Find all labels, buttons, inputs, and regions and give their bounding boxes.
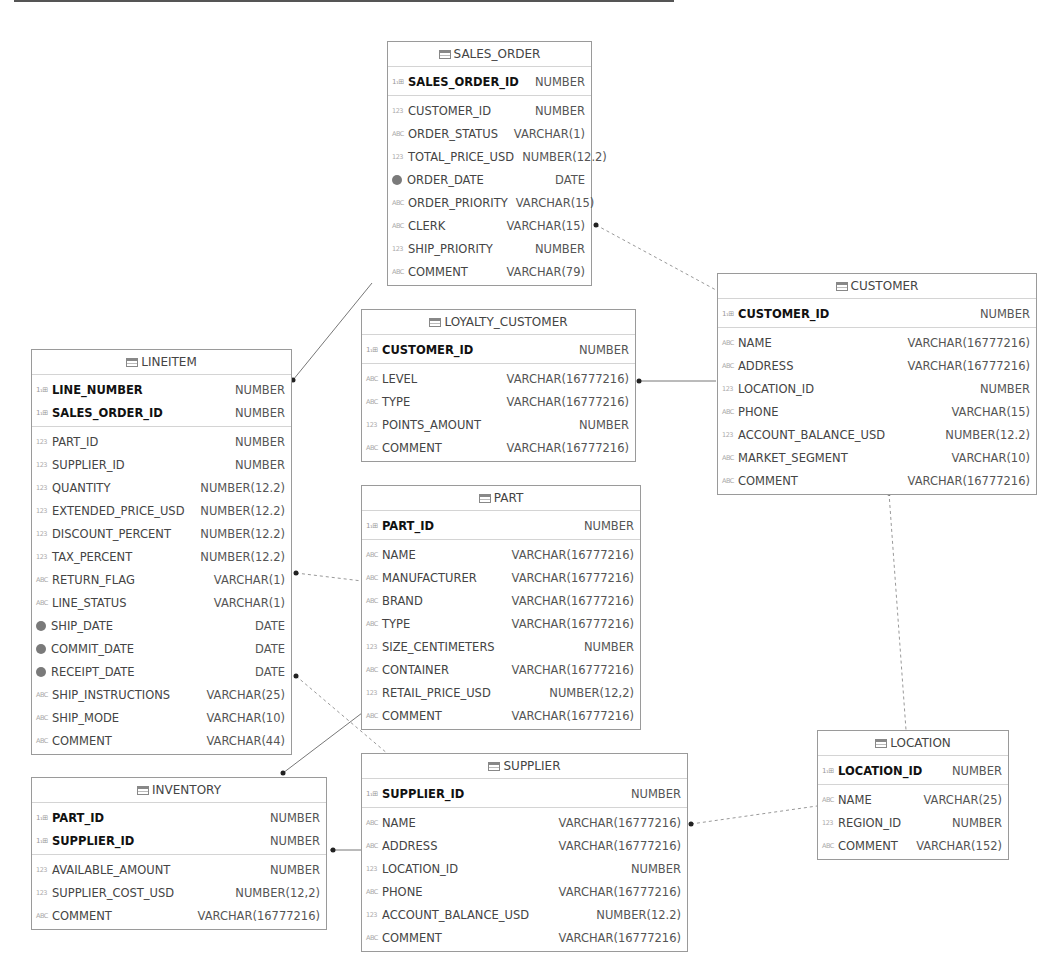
column-row[interactable]: ABCADDRESSVARCHAR(16777216) (362, 834, 687, 857)
column-row[interactable]: 123SUPPLIER_IDNUMBER (32, 453, 291, 476)
column-row[interactable]: 1₁⊞CUSTOMER_IDNUMBER (718, 302, 1036, 325)
column-row[interactable]: ABCCOMMENTVARCHAR(44) (32, 729, 291, 752)
column-row[interactable]: 123TOTAL_PRICE_USDNUMBER(12.2) (388, 145, 591, 168)
column-row[interactable]: ABCLEVELVARCHAR(16777216) (362, 367, 635, 390)
column-row[interactable]: 1₁⊞CUSTOMER_IDNUMBER (362, 338, 635, 361)
column-row[interactable]: 123ACCOUNT_BALANCE_USDNUMBER(12.2) (362, 903, 687, 926)
column-row[interactable]: ABCPHONEVARCHAR(15) (718, 400, 1036, 423)
column-row[interactable]: 123REGION_IDNUMBER (818, 811, 1008, 834)
column-row[interactable]: 1₁⊞LINE_NUMBERNUMBER (32, 378, 291, 401)
column-row[interactable]: ABCNAMEVARCHAR(16777216) (362, 811, 687, 834)
column-row[interactable]: ORDER_DATEDATE (388, 168, 591, 191)
column-row[interactable]: ABCCOMMENTVARCHAR(79) (388, 260, 591, 283)
entity-header[interactable]: SALES_ORDER (388, 42, 591, 67)
column-row[interactable]: 1₁⊞PART_IDNUMBER (32, 806, 326, 829)
entity-location[interactable]: LOCATION1₁⊞LOCATION_IDNUMBERABCNAMEVARCH… (817, 730, 1009, 860)
column-row[interactable]: 1₁⊞SALES_ORDER_IDNUMBER (32, 401, 291, 424)
column-row[interactable]: ABCBRANDVARCHAR(16777216) (362, 589, 640, 612)
column-row[interactable]: ABCNAMEVARCHAR(16777216) (718, 331, 1036, 354)
column-row[interactable]: ABCCOMMENTVARCHAR(16777216) (718, 469, 1036, 492)
column-row[interactable]: ABCCOMMENTVARCHAR(16777216) (32, 904, 326, 927)
column-row[interactable]: 123AVAILABLE_AMOUNTNUMBER (32, 858, 326, 881)
column-row[interactable]: ABCTYPEVARCHAR(16777216) (362, 612, 640, 635)
column-row[interactable]: 123POINTS_AMOUNTNUMBER (362, 413, 635, 436)
numeric-type-icon: 123 (392, 245, 408, 253)
entity-lineitem[interactable]: LINEITEM1₁⊞LINE_NUMBERNUMBER1₁⊞SALES_ORD… (31, 349, 292, 755)
column-row[interactable]: 123CUSTOMER_IDNUMBER (388, 99, 591, 122)
column-name: COMMIT_DATE (51, 642, 134, 656)
column-type: NUMBER (579, 343, 629, 357)
column-row[interactable]: SHIP_DATEDATE (32, 614, 291, 637)
primary-key-icon: 1₁⊞ (366, 346, 382, 354)
column-row[interactable]: ABCCONTAINERVARCHAR(16777216) (362, 658, 640, 681)
column-type: VARCHAR(152) (916, 839, 1002, 853)
entity-header[interactable]: LINEITEM (32, 350, 291, 375)
column-row[interactable]: COMMIT_DATEDATE (32, 637, 291, 660)
column-row[interactable]: 123SUPPLIER_COST_USDNUMBER(12,2) (32, 881, 326, 904)
entity-part[interactable]: PART1₁⊞PART_IDNUMBERABCNAMEVARCHAR(16777… (361, 485, 641, 730)
column-row[interactable]: 1₁⊞SUPPLIER_IDNUMBER (362, 782, 687, 805)
column-row[interactable]: ABCCOMMENTVARCHAR(16777216) (362, 926, 687, 949)
column-label: ABCNAME (366, 816, 416, 830)
entity-header[interactable]: LOCATION (818, 731, 1008, 756)
column-name: SHIP_DATE (51, 619, 113, 633)
column-row[interactable]: ABCNAMEVARCHAR(25) (818, 788, 1008, 811)
column-row[interactable]: 123QUANTITYNUMBER(12.2) (32, 476, 291, 499)
entity-sales-order[interactable]: SALES_ORDER1₁⊞SALES_ORDER_IDNUMBER123CUS… (387, 41, 592, 286)
entity-header[interactable]: SUPPLIER (362, 754, 687, 779)
column-row[interactable]: 123SHIP_PRIORITYNUMBER (388, 237, 591, 260)
string-type-icon: ABC (722, 362, 738, 370)
column-row[interactable]: ABCMARKET_SEGMENTVARCHAR(10) (718, 446, 1036, 469)
column-row[interactable]: 123LOCATION_IDNUMBER (718, 377, 1036, 400)
entity-inventory[interactable]: INVENTORY1₁⊞PART_IDNUMBER1₁⊞SUPPLIER_IDN… (31, 777, 327, 930)
column-row[interactable]: 1₁⊞LOCATION_IDNUMBER (818, 759, 1008, 782)
column-row[interactable]: 123LOCATION_IDNUMBER (362, 857, 687, 880)
column-label: 123SUPPLIER_ID (36, 458, 125, 472)
entity-header[interactable]: CUSTOMER (718, 274, 1036, 299)
entity-loyalty-customer[interactable]: LOYALTY_CUSTOMER1₁⊞CUSTOMER_IDNUMBERABCL… (361, 309, 636, 462)
column-row[interactable]: ABCLINE_STATUSVARCHAR(1) (32, 591, 291, 614)
column-row[interactable]: ABCSHIP_INSTRUCTIONSVARCHAR(25) (32, 683, 291, 706)
column-row[interactable]: 123PART_IDNUMBER (32, 430, 291, 453)
column-row[interactable]: ABCCOMMENTVARCHAR(152) (818, 834, 1008, 857)
entity-customer[interactable]: CUSTOMER1₁⊞CUSTOMER_IDNUMBERABCNAMEVARCH… (717, 273, 1037, 495)
entity-title: SUPPLIER (503, 759, 560, 773)
column-row[interactable]: 1₁⊞PART_IDNUMBER (362, 514, 640, 537)
column-row[interactable]: 123ACCOUNT_BALANCE_USDNUMBER(12.2) (718, 423, 1036, 446)
column-label: ABCNAME (722, 336, 772, 350)
column-row[interactable]: ABCTYPEVARCHAR(16777216) (362, 390, 635, 413)
column-type: NUMBER (631, 862, 681, 876)
column-row[interactable]: ABCCLERKVARCHAR(15) (388, 214, 591, 237)
string-type-icon: ABC (366, 842, 382, 850)
column-row[interactable]: ABCMANUFACTURERVARCHAR(16777216) (362, 566, 640, 589)
column-type: NUMBER(12.2) (200, 481, 285, 495)
column-row[interactable]: ABCADDRESSVARCHAR(16777216) (718, 354, 1036, 377)
column-row[interactable]: 123DISCOUNT_PERCENTNUMBER(12.2) (32, 522, 291, 545)
entity-header[interactable]: LOYALTY_CUSTOMER (362, 310, 635, 335)
column-type: VARCHAR(16777216) (559, 885, 681, 899)
column-row[interactable]: 123RETAIL_PRICE_USDNUMBER(12,2) (362, 681, 640, 704)
entity-header[interactable]: INVENTORY (32, 778, 326, 803)
column-row[interactable]: ABCSHIP_MODEVARCHAR(10) (32, 706, 291, 729)
column-row[interactable]: 123TAX_PERCENTNUMBER(12.2) (32, 545, 291, 568)
column-label: ABCRETURN_FLAG (36, 573, 135, 587)
column-name: SIZE_CENTIMETERS (382, 640, 495, 654)
column-row[interactable]: ABCCOMMENTVARCHAR(16777216) (362, 436, 635, 459)
column-label: 1₁⊞LOCATION_ID (822, 764, 922, 778)
column-label: ABCADDRESS (722, 359, 793, 373)
column-row[interactable]: 1₁⊞SUPPLIER_IDNUMBER (32, 829, 326, 852)
column-row[interactable]: ABCCOMMENTVARCHAR(16777216) (362, 704, 640, 727)
column-type: VARCHAR(25) (923, 793, 1002, 807)
entity-supplier[interactable]: SUPPLIER1₁⊞SUPPLIER_IDNUMBERABCNAMEVARCH… (361, 753, 688, 952)
column-row[interactable]: ABCORDER_STATUSVARCHAR(1) (388, 122, 591, 145)
column-label: 123RETAIL_PRICE_USD (366, 686, 491, 700)
column-row[interactable]: ABCPHONEVARCHAR(16777216) (362, 880, 687, 903)
column-row[interactable]: 123EXTENDED_PRICE_USDNUMBER(12.2) (32, 499, 291, 522)
column-row[interactable]: ABCRETURN_FLAGVARCHAR(1) (32, 568, 291, 591)
column-row[interactable]: RECEIPT_DATEDATE (32, 660, 291, 683)
column-row[interactable]: 123SIZE_CENTIMETERSNUMBER (362, 635, 640, 658)
entity-header[interactable]: PART (362, 486, 640, 511)
column-row[interactable]: ABCNAMEVARCHAR(16777216) (362, 543, 640, 566)
column-row[interactable]: 1₁⊞SALES_ORDER_IDNUMBER (388, 70, 591, 93)
column-row[interactable]: ABCORDER_PRIORITYVARCHAR(15) (388, 191, 591, 214)
